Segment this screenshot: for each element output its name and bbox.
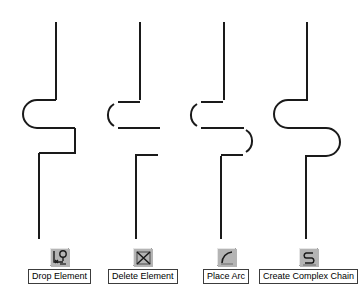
tool-label-create-complex-chain[interactable]: Create Complex Chain xyxy=(259,269,358,284)
shape-drop-element xyxy=(23,22,75,239)
shape1-square-step xyxy=(39,128,75,153)
tool-label-place-arc[interactable]: Place Arc xyxy=(203,269,249,284)
shape-delete-element xyxy=(108,22,160,239)
tool-label-delete-element[interactable]: Delete Element xyxy=(108,269,178,284)
shape1-left-fillet xyxy=(23,100,75,128)
diagram-canvas: Drop Element Delete Element xyxy=(0,0,363,303)
shape3-left-arc xyxy=(191,104,197,126)
create-complex-chain-icon[interactable] xyxy=(299,248,318,266)
tool-create-complex-chain[interactable]: Create Complex Chain xyxy=(259,248,358,284)
tool-drop-element[interactable]: Drop Element xyxy=(28,248,91,284)
shape2-left-arc xyxy=(108,104,114,126)
shape4-complex-path xyxy=(274,22,340,239)
tool-place-arc[interactable]: Place Arc xyxy=(203,248,249,284)
toolbar: Drop Element Delete Element xyxy=(0,248,363,293)
shape3-right-arc xyxy=(246,130,252,152)
drop-element-icon[interactable] xyxy=(50,248,69,266)
tool-delete-element[interactable]: Delete Element xyxy=(108,248,178,284)
tool-label-drop-element[interactable]: Drop Element xyxy=(28,269,91,284)
place-arc-icon[interactable] xyxy=(217,248,236,266)
delete-element-icon[interactable] xyxy=(133,248,152,266)
shape-complex-chain xyxy=(274,22,340,239)
shape-place-arc xyxy=(191,22,252,239)
